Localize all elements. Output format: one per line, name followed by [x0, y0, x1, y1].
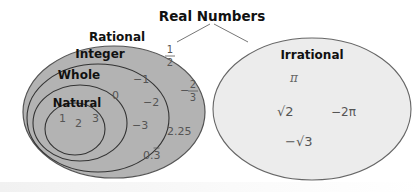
natural-label: Natural [53, 96, 101, 110]
connector-line-rational [177, 24, 210, 42]
svg-text:3: 3 [190, 92, 196, 103]
integer-member: −1 [133, 73, 149, 86]
integer-label: Integer [75, 47, 125, 61]
natural-member: 1 [59, 112, 66, 125]
svg-text:2: 2 [190, 79, 196, 90]
natural-member: 2 [75, 117, 82, 130]
svg-text:2: 2 [167, 57, 173, 68]
irrational-member-neg-sqrt3: −√3 [285, 134, 312, 149]
bottom-shadow-strip [0, 182, 420, 192]
connector-line-irrational [214, 24, 248, 42]
irrational-member-sqrt2: √2 [277, 104, 294, 119]
decimal-two-point-two-five: 2.25 [167, 125, 192, 138]
repeating-decimal-zero-point-three: 0.3 [143, 148, 161, 162]
svg-text:1: 1 [167, 44, 173, 55]
integer-member: −3 [132, 119, 148, 132]
irrational-member-neg-2pi: −2π [331, 105, 356, 119]
real-numbers-venn-diagram: Real Numbers Rational Integer Whole Natu… [0, 0, 420, 192]
natural-member: 3 [92, 112, 99, 125]
svg-text:0.3: 0.3 [143, 149, 161, 162]
rational-label: Rational [89, 30, 145, 44]
irrational-member-pi: π [289, 71, 299, 85]
whole-member: 0 [112, 89, 119, 102]
whole-label: Whole [58, 68, 100, 82]
diagram-title: Real Numbers [159, 8, 265, 24]
svg-text:−: − [180, 84, 189, 97]
irrational-label: Irrational [280, 48, 343, 62]
integer-member: −2 [143, 96, 159, 109]
